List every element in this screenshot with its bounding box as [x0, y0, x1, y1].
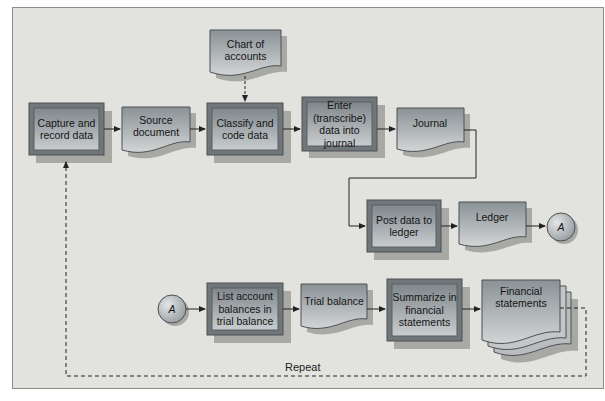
- flowchart-graphics: [0, 0, 605, 401]
- chart-of-accounts-label: Chart of accounts: [214, 30, 277, 70]
- enter-label: Enter (transcribe) data into journal: [307, 102, 372, 146]
- list-balances-label: List account balances in trial balance: [212, 288, 278, 330]
- financial-statements-label: Financial statements: [486, 282, 556, 312]
- summarize-label: Summarize in financial statements: [392, 284, 457, 336]
- source-document-label: Source document: [126, 110, 186, 142]
- ledger-label: Ledger: [462, 204, 522, 230]
- classify-label: Classify and code data: [212, 108, 278, 150]
- capture-label: Capture and record data: [34, 108, 99, 150]
- journal-label: Journal: [400, 110, 460, 136]
- connector-a-in-label: A: [158, 295, 186, 323]
- trial-balance-label: Trial balance: [304, 286, 364, 316]
- repeat-label: Repeat: [285, 361, 320, 373]
- post-label: Post data to ledger: [372, 205, 436, 247]
- connector-a-out-label: A: [547, 213, 575, 241]
